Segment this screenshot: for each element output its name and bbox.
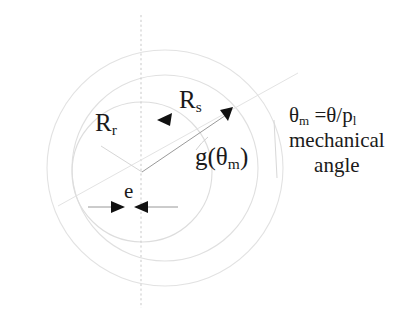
stator-radius-subscript: s	[196, 98, 202, 115]
angle-reference-line	[58, 73, 298, 206]
stator-radius-arrowhead	[220, 107, 233, 121]
rotor-radius-arrowhead	[157, 113, 172, 126]
annotation-line-3: angle	[289, 153, 385, 178]
pole-pairs-subscript: l	[353, 113, 357, 128]
theta-m-subscript: m	[299, 113, 309, 128]
airgap-function-label: g(θm)	[195, 144, 248, 169]
annotation-equation-rest: =θ/p	[309, 103, 353, 127]
mechanical-angle-annotation: θm =θ/pl mechanical angle	[289, 103, 385, 177]
eccentricity-symbol: e	[124, 179, 133, 203]
airgap-function-open: g(	[195, 143, 216, 170]
airgap-function-subscript: m	[228, 155, 240, 172]
airgap-function-close: )	[240, 143, 248, 170]
annotation-line-2: mechanical	[289, 128, 385, 153]
eccentricity-arrowhead-right	[111, 201, 125, 213]
rotor-radius-label: Rr	[95, 110, 117, 135]
figure-canvas: Rr Rs e g(θm) θm =θ/pl mechanical angle	[0, 0, 418, 317]
rotor-radius-subscript: r	[112, 121, 117, 138]
annotation-line-1: θm =θ/pl	[289, 103, 385, 128]
eccentricity-label: e	[124, 181, 133, 202]
stator-radius-symbol: R	[179, 86, 196, 113]
theta-m-symbol: θ	[289, 103, 299, 127]
rotor-radius-ray	[101, 146, 142, 172]
theta-symbol: θ	[216, 143, 228, 170]
stator-radius-label: Rs	[179, 87, 202, 112]
rotor-radius-symbol: R	[95, 109, 112, 136]
